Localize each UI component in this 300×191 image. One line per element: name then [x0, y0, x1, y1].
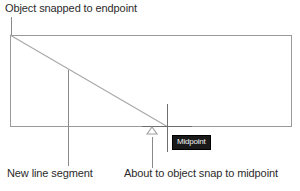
leader-line-top [11, 17, 12, 36]
annotation-label-object-snapped-to-endpoint: Object snapped to endpoint [5, 2, 137, 15]
annotation-label-new-line-segment: New line segment [7, 167, 93, 180]
annotation-label-about-to-object-snap-to-midpoint: About to object snap to midpoint [124, 167, 278, 180]
leader-line-new-line-segment [68, 70, 69, 166]
snap-tooltip-midpoint: Midpoint [172, 135, 211, 150]
crosshair-vertical-arm [167, 104, 168, 152]
cad-drawing-canvas[interactable]: Object snapped to endpoint Midpoint New … [0, 0, 300, 191]
midpoint-triangle-icon [146, 126, 158, 135]
leader-line-snap-midpoint [152, 137, 153, 168]
new-line-segment-line [10, 35, 169, 128]
